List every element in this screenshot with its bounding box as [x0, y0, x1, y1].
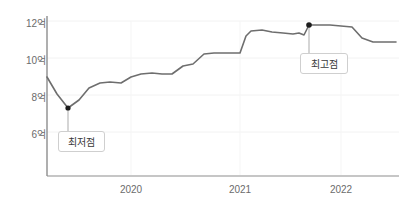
- annotation-max-label: 최고점: [311, 56, 338, 71]
- x-tick-label-2022: 2022: [316, 184, 366, 195]
- annotation-max-callout: 최고점: [300, 53, 348, 74]
- chart-canvas: [0, 0, 405, 206]
- x-tick-label-2020: 2020: [106, 184, 156, 195]
- min-point-marker: [65, 105, 70, 110]
- axes: [47, 16, 399, 176]
- annotation-connector-max: [306, 22, 312, 53]
- y-tick-label-12: 12억: [12, 15, 46, 30]
- x-tick-label-2021: 2021: [215, 184, 265, 195]
- line-chart: 12억 10억 8억 6억 2020 2021 2022 최저점 최고점: [0, 0, 405, 206]
- y-tick-label-6: 6억: [12, 126, 46, 141]
- annotation-connector-min: [65, 105, 70, 131]
- y-tick-label-8: 8억: [12, 89, 46, 104]
- annotation-min-label: 최저점: [68, 134, 95, 149]
- max-point-marker: [306, 22, 312, 28]
- annotation-min-callout: 최저점: [58, 131, 105, 152]
- y-tick-label-10: 10억: [12, 52, 46, 67]
